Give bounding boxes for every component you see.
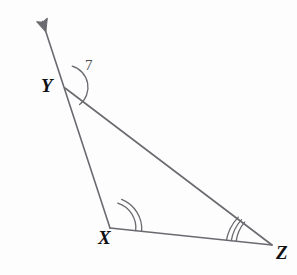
- angle-arc-x-outer: [122, 199, 142, 231]
- geometry-canvas: [0, 0, 297, 275]
- angle-number-label-7: 7: [85, 58, 93, 73]
- vertex-label-z: Z: [276, 243, 288, 262]
- segment-yz: [65, 88, 272, 245]
- ray-beyond-y: [43, 22, 111, 229]
- vertex-label-y: Y: [41, 76, 53, 95]
- segment-xz: [110, 228, 272, 245]
- vertex-label-x: X: [98, 228, 111, 247]
- geometry-diagram: Y X Z 7: [0, 0, 297, 275]
